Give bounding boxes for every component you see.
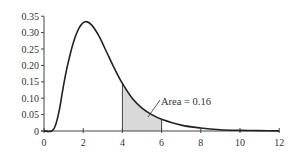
x-tick-label: 8 [198,137,203,148]
x-tick-label: 6 [159,137,164,148]
y-tick-label: 0.20 [22,60,40,71]
x-tick-label: 2 [81,137,86,148]
y-tick-label: 0.05 [22,109,40,120]
density-curve [44,22,279,132]
annotation-leader-line [148,100,160,117]
density-chart: 00.050.100.150.200.250.300.35 024681012 … [0,0,298,158]
x-tick-label: 0 [42,137,47,148]
area-annotation: Area = 0.16 [161,96,211,107]
y-tick-label: 0.10 [22,93,40,104]
y-tick-label: 0.30 [22,27,40,38]
y-tick-label: 0.15 [22,76,40,87]
y-tick-label: 0.35 [22,11,40,22]
x-tick-label: 12 [274,137,284,148]
y-tick-label: 0 [34,126,39,137]
x-tick-label: 10 [235,137,245,148]
x-tick-label: 4 [120,137,125,148]
y-axis: 00.050.100.150.200.250.300.35 [22,11,45,137]
y-tick-label: 0.25 [22,44,40,55]
